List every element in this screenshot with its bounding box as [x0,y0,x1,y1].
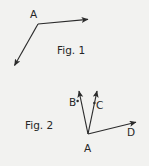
fig1-ray-lower-left [15,24,39,66]
tick-on-ray-ab-icon [76,100,79,103]
fig2-tick-marks [76,100,95,105]
geometry-svg [0,0,149,166]
fig1-rays [15,19,89,65]
fig2-point-label-b: B [69,97,76,108]
fig2-ray-ac [88,91,97,134]
fig1-caption: Fig. 1 [57,45,85,56]
fig2-ray-ab [79,91,88,134]
fig1-ray-right [38,19,88,24]
fig2-caption: Fig. 2 [25,120,53,131]
fig2-vertex-label-a: A [84,143,91,154]
geometry-diagram: A Fig. 1 B C D A Fig. 2 [0,0,149,166]
fig2-point-label-d: D [127,127,135,138]
fig2-point-label-c: C [96,100,103,111]
fig1-vertex-label-a: A [30,9,37,20]
